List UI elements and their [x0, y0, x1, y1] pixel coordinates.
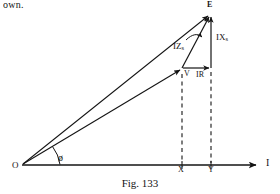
label-angle-phi: ø — [58, 153, 63, 163]
label-axis-I: I — [266, 158, 269, 168]
label-point-E: E — [207, 1, 212, 9]
label-drop-IXs-base: IX — [216, 32, 226, 42]
label-tick-X: X — [178, 166, 184, 174]
label-drop-IXs: IXs — [216, 33, 228, 43]
label-drop-IZs-subscript: s — [182, 44, 185, 51]
vector-VE-impedance-drop — [182, 17, 209, 68]
label-point-O-origin: O — [12, 161, 19, 170]
curved-annotation-arrow-icon — [186, 35, 202, 40]
label-voltage-V: V — [184, 70, 190, 78]
label-drop-IXs-subscript: s — [226, 35, 229, 42]
label-drop-IR: IR — [196, 71, 204, 79]
label-tick-Y: Y — [208, 166, 214, 174]
label-drop-IZs: IZs — [173, 42, 184, 52]
figure-container: own. E — [0, 0, 280, 194]
phasor-diagram-svg — [0, 0, 280, 194]
vector-OE-emf — [23, 16, 208, 164]
figure-caption: Fig. 133 — [0, 178, 280, 189]
vector-OV-terminal-voltage — [23, 70, 180, 164]
label-drop-IZs-base: IZ — [173, 41, 182, 51]
